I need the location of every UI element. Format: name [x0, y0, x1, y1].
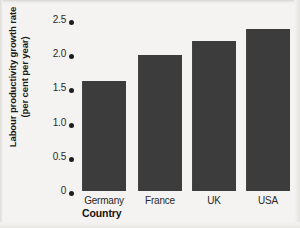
y-tick-label-1-0: 1.0 [30, 117, 66, 128]
y-tick-dot-0 [69, 191, 74, 196]
y-tick-dot-2-0 [69, 54, 74, 59]
y-tick-dot-0-5 [69, 157, 74, 162]
y-tick-dot-1-0 [69, 123, 74, 128]
x-axis-title: Country [82, 207, 122, 219]
y-tick-dot-2-5 [69, 20, 74, 25]
y-tick-dot-1-5 [69, 88, 74, 93]
x-tick-label-france: France [134, 195, 186, 206]
bar-chart-plot-area: Labour productivity growth rate (per cen… [0, 0, 300, 228]
bar-usa [246, 29, 290, 191]
y-tick-label-2-5: 2.5 [30, 14, 66, 25]
y-tick-label-1-5: 1.5 [30, 82, 66, 93]
y-tick-label-0: 0 [30, 185, 66, 196]
bar-uk [192, 41, 236, 191]
y-tick-label-2-0: 2.0 [30, 48, 66, 59]
x-tick-label-uk: UK [188, 195, 240, 206]
y-axis-title-line-1: Labour productivity growth rate [7, 0, 19, 162]
y-axis-title-line-2: (per cent per year) [19, 0, 31, 162]
chart-screenshot: Labour productivity growth rate (per cen… [0, 0, 300, 228]
bar-germany [82, 81, 126, 191]
y-tick-label-0-5: 0.5 [30, 151, 66, 162]
x-tick-label-usa: USA [242, 195, 294, 206]
x-tick-label-germany: Germany [78, 195, 130, 206]
bar-france [138, 55, 182, 191]
